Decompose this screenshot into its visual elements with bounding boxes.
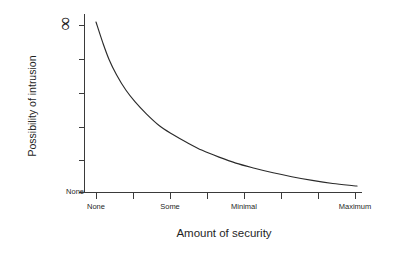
x-axis-ticks bbox=[97, 193, 356, 199]
y-axis-infinity-label: ∞ bbox=[57, 17, 76, 31]
y-axis-title: Possibility of intrusion bbox=[26, 11, 38, 201]
y-axis-ticks bbox=[79, 26, 85, 193]
x-axis-label-some: Some bbox=[160, 203, 180, 211]
chart-figure: ∞ None None Some Minimal Maximum Possibi… bbox=[0, 0, 400, 255]
x-axis-label-none: None bbox=[87, 203, 105, 211]
chart-plot-area bbox=[0, 0, 400, 255]
x-axis-label-minimal: Minimal bbox=[231, 203, 257, 211]
x-axis-title: Amount of security bbox=[84, 227, 364, 239]
y-axis-none-label: None bbox=[66, 188, 84, 196]
x-axis-label-maximum: Maximum bbox=[339, 203, 372, 211]
intrusion-decay-curve bbox=[96, 22, 357, 186]
